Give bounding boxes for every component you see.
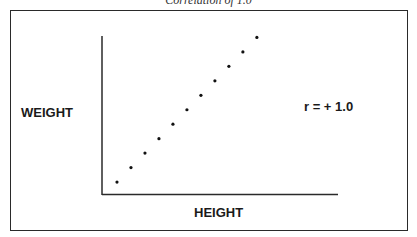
data-point (115, 180, 118, 183)
data-point (157, 137, 160, 140)
data-point (213, 79, 216, 82)
data-point (227, 65, 230, 68)
y-axis-label: WEIGHT (21, 105, 73, 120)
data-point (143, 152, 146, 155)
x-axis-label: HEIGHT (194, 205, 243, 220)
data-point (129, 166, 132, 169)
data-point (171, 123, 174, 126)
data-point (241, 50, 244, 53)
data-points (115, 36, 258, 184)
data-point (255, 36, 258, 39)
scatter-plot: WEIGHT HEIGHT r = + 1.0 (0, 0, 417, 237)
data-point (185, 108, 188, 111)
correlation-annotation: r = + 1.0 (304, 99, 353, 114)
data-point (199, 94, 202, 97)
